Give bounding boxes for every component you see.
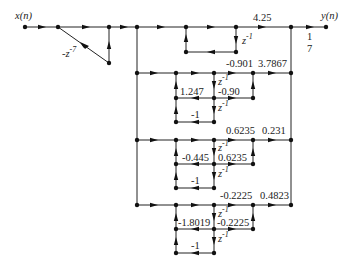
main-path [25,25,326,29]
feedback-a1-label: -0.445 [182,152,209,163]
feedback-a2-label: -1 [191,175,200,186]
feedback-a1-label: 1.247 [180,86,204,97]
output-gain-label: 0.231 [262,125,286,136]
comb-filter-branch: -z-7 [58,27,111,63]
delay-label: z-1 [217,73,229,87]
delay-label: z-1 [217,139,229,153]
output-gain-label: 0.4823 [260,190,289,201]
coef-label: 0.6235 [226,125,255,136]
resonator-section-2: 0.6235 0.231 -0.445 z-1 0.6235 -1 z-1 [137,125,291,190]
delay-label: z-1 [217,230,229,244]
feedback-a1-label: -1.8019 [178,217,210,228]
delay-label: z-1 [217,165,229,179]
output-gain-denominator: 7 [307,43,312,54]
coef-label: -0.901 [226,58,253,69]
gain-label: 4.25 [253,12,271,23]
feedback-a2-label: -1 [191,109,200,120]
output-label: y(n) [320,10,338,22]
delay-label: z-1 [217,99,229,113]
resonator-section-1: -0.901 3.7867 1.247 z-1 -0.90 -1 z-1 [137,58,291,124]
comb-gain-label: -z-7 [62,45,77,59]
output-gain-numerator: 1 [307,31,312,42]
input-label: x(n) [14,10,32,22]
delay-label: z-1 [241,32,253,46]
coef-label: 0.6235 [218,152,247,163]
output-gain-label: 3.7867 [258,58,287,69]
coef-label: -0.90 [218,86,240,97]
coef-label: -0.2225 [220,190,252,201]
feedback-a2-label: -1 [191,240,200,251]
first-order-section: z-1 4.25 [184,12,272,54]
coef-label: -0.2225 [217,217,249,228]
signal-flow-graph: -z-7 z-1 4.25 -0.901 3.7867 1. [0,0,348,264]
resonator-section-3: -0.2225 0.4823 -1.8019 z-1 -0.2225 -1 z-… [137,190,291,255]
